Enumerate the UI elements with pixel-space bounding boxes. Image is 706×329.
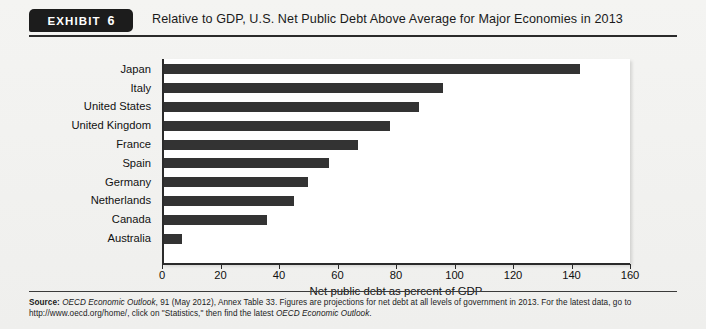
x-axis-tick-label: 120: [504, 269, 523, 281]
footer-divider: [29, 291, 677, 292]
source-label: Source:: [29, 298, 60, 307]
bar-row: [162, 229, 630, 248]
exhibit-badge-number: 6: [108, 14, 115, 28]
bar: [162, 64, 580, 74]
bar-row: [162, 98, 630, 117]
header-divider: [29, 35, 677, 37]
bar-row: [162, 79, 630, 98]
y-axis-label: United States: [29, 98, 157, 117]
y-axis-label: Canada: [29, 210, 157, 229]
y-axis-tick-labels: JapanItalyUnited StatesUnited KingdomFra…: [29, 60, 157, 248]
y-axis-label: Netherlands: [29, 192, 157, 211]
bar: [162, 102, 419, 112]
exhibit-header: EXHIBIT 6 Relative to GDP, U.S. Net Publ…: [0, 0, 706, 40]
bar-row: [162, 116, 630, 135]
bar-row: [162, 154, 630, 173]
y-axis-label: Germany: [29, 173, 157, 192]
x-axis-tick-label: 140: [562, 269, 581, 281]
x-axis-tick-label: 160: [621, 269, 640, 281]
bar-row: [162, 192, 630, 211]
x-axis-tick-label: 100: [445, 269, 464, 281]
source-publication-1: OECD Economic Outlook: [62, 298, 155, 307]
bar-row: [162, 60, 630, 79]
source-note: Source: OECD Economic Outlook, 91 (May 2…: [29, 297, 681, 320]
bar-row: [162, 173, 630, 192]
x-axis-tick-label: 20: [214, 269, 226, 281]
bar-series: [162, 60, 630, 248]
y-axis-label: Australia: [29, 229, 157, 248]
bar-row: [162, 135, 630, 154]
y-axis-line: [162, 59, 164, 264]
y-axis-label: Japan: [29, 60, 157, 79]
x-axis-tick-labels: 020406080100120140160: [162, 269, 630, 285]
y-axis-label: Spain: [29, 154, 157, 173]
exhibit-badge-word: EXHIBIT: [47, 15, 100, 27]
exhibit-badge: EXHIBIT 6: [29, 9, 133, 32]
y-axis-label: Italy: [29, 79, 157, 98]
bar: [162, 140, 358, 150]
exhibit-page: EXHIBIT 6 Relative to GDP, U.S. Net Publ…: [0, 0, 706, 329]
source-publication-2: OECD Economic Outlook: [276, 309, 369, 318]
bar: [162, 83, 443, 93]
bar: [162, 196, 294, 206]
bar: [162, 215, 267, 225]
x-axis-tick-label: 0: [159, 269, 165, 281]
bar: [162, 158, 329, 168]
x-axis-tick-label: 60: [331, 269, 343, 281]
bar: [162, 177, 308, 187]
x-axis-tick-label: 80: [390, 269, 402, 281]
x-axis-tick-label: 40: [273, 269, 285, 281]
bar: [162, 234, 182, 244]
bar: [162, 121, 390, 131]
source-body-2: .: [369, 309, 371, 318]
chart-region: JapanItalyUnited StatesUnited KingdomFra…: [29, 44, 677, 282]
page-title: Relative to GDP, U.S. Net Public Debt Ab…: [152, 12, 623, 26]
y-axis-label: France: [29, 135, 157, 154]
bar-row: [162, 210, 630, 229]
y-axis-label: United Kingdom: [29, 116, 157, 135]
